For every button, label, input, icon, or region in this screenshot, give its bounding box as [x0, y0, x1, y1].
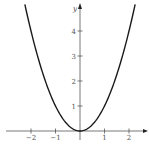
y-tick-label: 3 — [72, 53, 76, 61]
y-tick-label: 1 — [72, 103, 76, 111]
x-tick-label: −2 — [26, 134, 36, 142]
y-tick-label: 2 — [72, 78, 76, 86]
x-tick-label: 1 — [102, 134, 106, 142]
parabola-chart: y−2−1121234 — [0, 0, 149, 144]
x-axis-arrow-icon — [143, 129, 148, 133]
y-axis-label: y — [72, 5, 78, 13]
x-tick-label: 2 — [127, 134, 131, 142]
y-tick-label: 4 — [72, 28, 77, 36]
x-tick-label: −1 — [50, 134, 60, 142]
y-axis-arrow-icon — [78, 3, 82, 9]
